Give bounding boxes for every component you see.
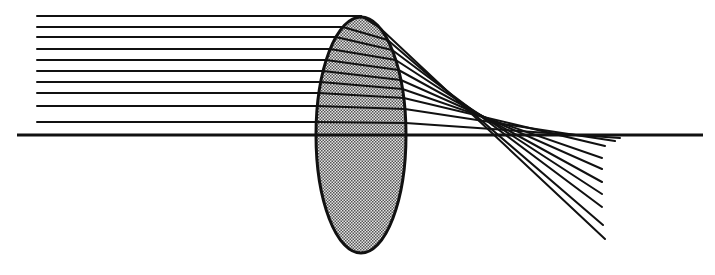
lens-diagram bbox=[0, 0, 715, 275]
refracted-ray-5 bbox=[399, 70, 602, 182]
refracted-ray-8 bbox=[404, 98, 605, 146]
diagram-canvas bbox=[0, 0, 715, 275]
refracted-ray-2 bbox=[388, 40, 603, 225]
incoming-rays bbox=[37, 16, 361, 122]
refracted-ray-4 bbox=[396, 60, 602, 194]
lens-ray-10 bbox=[316, 122, 405, 123]
